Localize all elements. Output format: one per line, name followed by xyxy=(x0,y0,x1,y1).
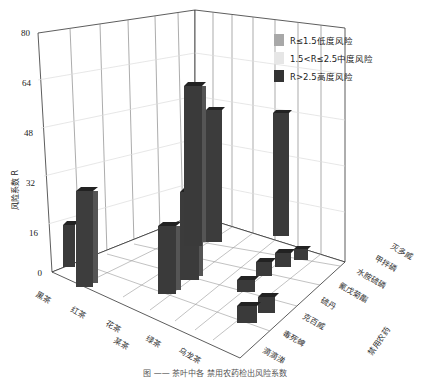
bar xyxy=(76,187,98,287)
y-tick: 32 xyxy=(26,178,35,188)
tea-label: 花茶 xyxy=(104,318,123,335)
pesticide-label: 毒死蜱 xyxy=(281,328,307,349)
legend-swatch-medium xyxy=(274,52,284,64)
y-tick: 16 xyxy=(29,228,39,238)
tea-label: 红茶 xyxy=(69,304,88,321)
tea-label: 绿茶 xyxy=(144,333,163,350)
pesticide-label: 甲拌磷 xyxy=(373,253,399,274)
y-axis: 80 64 48 32 16 0 风险系数 R xyxy=(10,28,43,278)
bar xyxy=(158,222,181,294)
tea-label: 黑茶 xyxy=(34,289,53,306)
y-tick: 80 xyxy=(21,28,31,38)
pesticide-label: 灭多威 xyxy=(389,241,415,262)
y-tick: 48 xyxy=(24,128,34,138)
y-axis-label: 风险系数 R xyxy=(10,170,20,211)
y-tick: 0 xyxy=(38,268,43,278)
bar xyxy=(184,82,206,246)
legend-label: 1.5<R≤2.5中度风险 xyxy=(290,54,373,64)
tea-label-extra: 某茶 xyxy=(112,335,131,352)
pesticide-axis-title: 禁用农药 xyxy=(365,325,392,357)
pesticide-label: 水胺硫磷 xyxy=(355,266,388,291)
pesticide-label: 滴滴涕 xyxy=(261,345,287,366)
figure-caption: 图 —— 茶叶中各 禁用农药检出风险系数 xyxy=(143,368,287,378)
pesticide-label: 克百威 xyxy=(301,311,327,332)
legend-swatch-high xyxy=(274,70,284,82)
legend-label: R>2.5高度风险 xyxy=(290,72,353,82)
tea-label: 乌龙茶 xyxy=(177,345,203,366)
pesticide-label: 氰戊菊酯 xyxy=(337,280,370,305)
pesticide-label: 硫丹 xyxy=(319,295,338,312)
y-tick: 64 xyxy=(22,78,32,88)
legend-label: R≤1.5低度风险 xyxy=(290,36,353,46)
bar-chart-3d: 80 64 48 32 16 0 风险系数 R xyxy=(0,0,431,381)
legend-swatch-low xyxy=(274,34,284,46)
